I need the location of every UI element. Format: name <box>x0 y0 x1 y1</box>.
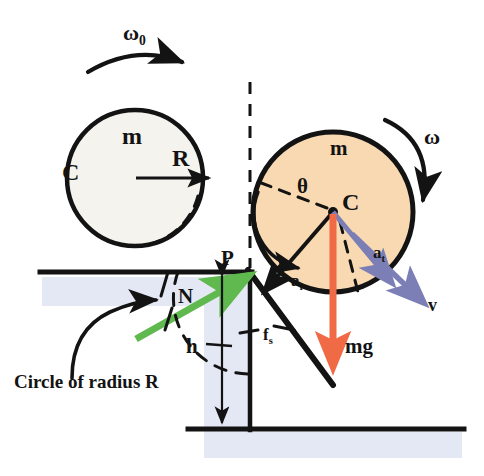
label-height-h: h <box>186 336 198 357</box>
label-velocity: v <box>428 296 437 314</box>
shaded-region-lower <box>204 432 462 458</box>
label-omega-zero: ω0 <box>123 22 146 48</box>
label-friction-force: fs <box>263 326 273 347</box>
label-theta: θ <box>297 176 308 197</box>
diagram-canvas <box>0 0 484 476</box>
label-radial-acceleration: ar <box>291 272 304 293</box>
label-normal-force: N <box>178 286 193 307</box>
shaded-region-step <box>204 277 250 449</box>
label-mass-right: m <box>330 138 348 159</box>
label-point-p: P <box>221 248 234 269</box>
caption-pointer-arrow <box>72 300 156 378</box>
omega-zero-arc <box>88 55 182 72</box>
omega-zero-arc-group <box>88 55 182 72</box>
label-radius-left: R <box>172 146 189 170</box>
label-center-right: C <box>342 190 359 214</box>
caption-circle-of-radius-r: Circle of radius R <box>14 372 159 391</box>
label-omega: ω <box>424 126 440 148</box>
label-mass-left: m <box>122 124 142 148</box>
label-weight: mg <box>345 336 373 357</box>
physics-figure: ω0 ω m C R m C θ P N h fs mg ar at <box>0 0 484 476</box>
label-center-left: C <box>62 160 79 184</box>
label-tangential-acceleration: at <box>373 244 385 265</box>
